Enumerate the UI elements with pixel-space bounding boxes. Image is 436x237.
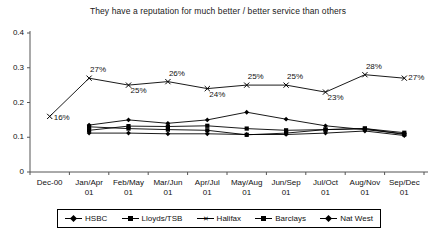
x-tick-label: Feb/May01 bbox=[107, 178, 151, 197]
legend-item-barclays[interactable]: Barclays bbox=[253, 214, 308, 223]
line-chart: They have a reputation for much better /… bbox=[0, 0, 436, 237]
square-marker-icon bbox=[122, 214, 139, 223]
legend-item-lloyds-tsb[interactable]: Lloyds/TSB bbox=[120, 214, 185, 223]
legend-item-nat-west[interactable]: Nat West bbox=[318, 214, 375, 223]
series-lines bbox=[47, 72, 407, 138]
y-tick-label: 0.1 bbox=[0, 132, 24, 141]
data-label: 25% bbox=[287, 72, 303, 81]
x-tick-label: Mar/Jun01 bbox=[146, 178, 190, 197]
data-label: 16% bbox=[54, 113, 70, 122]
x-tick-label: Apr/Jul01 bbox=[185, 178, 229, 197]
diamond-marker-icon bbox=[320, 214, 337, 223]
x-tick-label: Jun/Sep01 bbox=[264, 178, 308, 197]
legend-label: Halifax bbox=[217, 214, 241, 223]
legend-label: Lloyds/TSB bbox=[142, 214, 183, 223]
legend-label: HSBC bbox=[85, 214, 107, 223]
y-tick-label: 0.3 bbox=[0, 63, 24, 72]
x-marker-icon: ✕ bbox=[197, 214, 214, 223]
x-tick-label: May/Aug01 bbox=[225, 178, 269, 197]
x-tick-label: Jul/Oct01 bbox=[304, 178, 348, 197]
data-label: 25% bbox=[131, 86, 147, 95]
data-label: 27% bbox=[408, 73, 424, 82]
diamond-marker-icon bbox=[65, 214, 82, 223]
data-label: 27% bbox=[90, 65, 106, 74]
legend-label: Nat West bbox=[340, 214, 373, 223]
y-tick-label: 0.4 bbox=[0, 28, 24, 37]
x-tick-label: Sep/Dec01 bbox=[382, 178, 426, 197]
chart-legend: HSBCLloyds/TSB✕HalifaxBarclaysNat West bbox=[57, 209, 381, 228]
data-label: 25% bbox=[248, 72, 264, 81]
legend-item-hsbc[interactable]: HSBC bbox=[63, 214, 109, 223]
square-marker-icon bbox=[255, 214, 272, 223]
x-tick-label: Jan/Apr01 bbox=[67, 178, 111, 197]
data-label: 26% bbox=[169, 69, 185, 78]
y-tick-label: 0.2 bbox=[0, 98, 24, 107]
data-label: 28% bbox=[366, 62, 382, 71]
data-label: 23% bbox=[328, 93, 344, 102]
data-label: 24% bbox=[209, 90, 225, 99]
legend-item-halifax[interactable]: ✕Halifax bbox=[195, 214, 243, 223]
y-tick-label: 0 bbox=[0, 167, 24, 176]
x-tick-label: Aug/Nov01 bbox=[343, 178, 387, 197]
x-tick-label: Dec-00 bbox=[28, 178, 72, 188]
axes bbox=[27, 31, 428, 175]
legend-label: Barclays bbox=[275, 214, 306, 223]
